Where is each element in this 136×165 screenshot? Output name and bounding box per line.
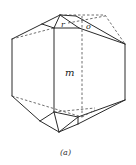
figure-caption: (a) — [60, 148, 71, 157]
face-label-o: o — [86, 22, 91, 31]
face-label-m: m — [65, 67, 74, 78]
crystal-diagram: m r o (a) — [0, 0, 136, 165]
